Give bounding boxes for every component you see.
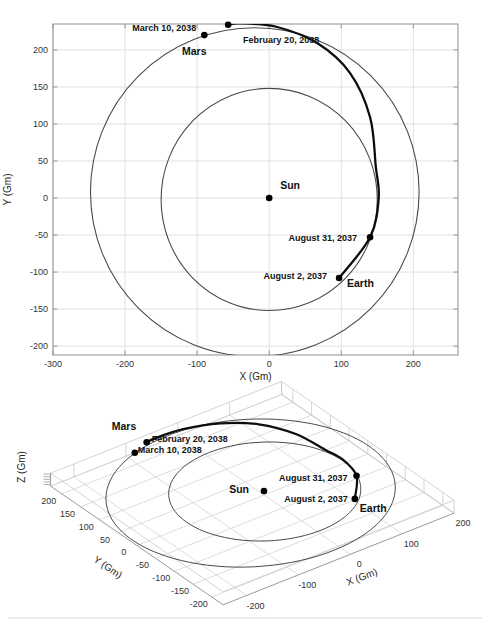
- x-tick-label-3d: -200: [246, 601, 264, 611]
- z-axis-label-3d: Z (Gm): [16, 451, 27, 483]
- y-axis-edge: [51, 486, 224, 605]
- y-tick-label-3d: 50: [100, 535, 110, 545]
- y-tick-label-3d: 200: [41, 496, 56, 506]
- y-tick-label-3d: 0: [121, 547, 126, 557]
- event-marker: [261, 488, 268, 495]
- x-tick-label-3d: 0: [357, 559, 362, 569]
- event-marker: [367, 234, 374, 241]
- y-tick-label: 50: [38, 156, 48, 166]
- planet-label: Sun: [280, 179, 300, 191]
- planet-label: Earth: [360, 502, 387, 514]
- y-tick-label: -100: [30, 267, 48, 277]
- plot-box-2d: [53, 24, 458, 355]
- event-marker: [353, 473, 360, 480]
- page-edge-shadow: [8, 617, 482, 619]
- y-tick-label-3d: 150: [60, 509, 75, 519]
- x-tick-label: -100: [188, 359, 206, 369]
- event-date-label: August 2, 2037: [284, 494, 348, 504]
- event-date-label: February 20, 2038: [152, 434, 228, 444]
- x-axis-edge: [223, 513, 454, 605]
- orbit-curves-2d: [90, 23, 419, 356]
- y-tick-label: 100: [33, 119, 48, 129]
- x-tick-label: -200: [116, 359, 134, 369]
- grid-2d: [53, 24, 458, 355]
- event-date-label: March 10, 2038: [132, 23, 196, 33]
- orbit-figure-canvas: -300-200-1000100200-200-150-100-50050100…: [0, 0, 490, 625]
- x-tick-label: 100: [334, 359, 349, 369]
- planet-label: Mars: [112, 420, 137, 432]
- x-tick-label: -300: [44, 359, 62, 369]
- y-tick-label-3d: -200: [190, 599, 208, 609]
- page-decoration: [8, 617, 482, 619]
- y-axis-label: Y (Gm): [2, 173, 13, 205]
- y-tick-label-3d: 100: [79, 522, 94, 532]
- event-marker: [352, 496, 359, 503]
- event-date-label: August 2, 2037: [264, 271, 328, 281]
- y-tick-label-3d: -100: [152, 573, 170, 583]
- y-tick-label: 200: [33, 45, 48, 55]
- event-date-label: August 31, 2037: [279, 473, 348, 483]
- event-marker: [336, 275, 343, 282]
- y-tick-label: -50: [35, 230, 48, 240]
- planet-label: Earth: [347, 277, 374, 289]
- x-tick-label: 0: [267, 359, 272, 369]
- x-tick-label-3d: 200: [456, 518, 471, 528]
- plot-2d-ecliptic-view: -300-200-1000100200-200-150-100-50050100…: [2, 21, 458, 382]
- figure-page: -300-200-1000100200-200-150-100-50050100…: [0, 0, 490, 625]
- y-axis-label-3d: Y (Gm): [92, 554, 125, 581]
- event-marker: [225, 21, 232, 28]
- y-tick-label-3d: -150: [171, 586, 189, 596]
- planet-label: Mars: [182, 45, 207, 57]
- event-marker: [201, 32, 208, 39]
- y-tick-label: -200: [30, 341, 48, 351]
- event-date-label: August 31, 2037: [289, 233, 358, 243]
- event-marker: [266, 195, 273, 202]
- planet-label: Sun: [229, 483, 249, 495]
- x-tick-label-3d: -100: [298, 580, 316, 590]
- event-date-label: March 10, 2038: [138, 445, 202, 455]
- x-axis-label: X (Gm): [239, 371, 271, 382]
- y-tick-label: 0: [43, 193, 48, 203]
- tick-marks-2d: [53, 24, 458, 355]
- mars-orbit-2d: [90, 28, 419, 357]
- x-tick-label-3d: 100: [404, 539, 419, 549]
- x-tick-label: 200: [406, 359, 421, 369]
- y-tick-label-3d: -50: [136, 560, 149, 570]
- event-date-label: February 20, 2038: [243, 35, 319, 45]
- plot-3d-view: -200-1000100200-200-150-100-500501001502…: [16, 381, 471, 610]
- y-tick-label: 150: [33, 82, 48, 92]
- y-tick-label: -150: [30, 304, 48, 314]
